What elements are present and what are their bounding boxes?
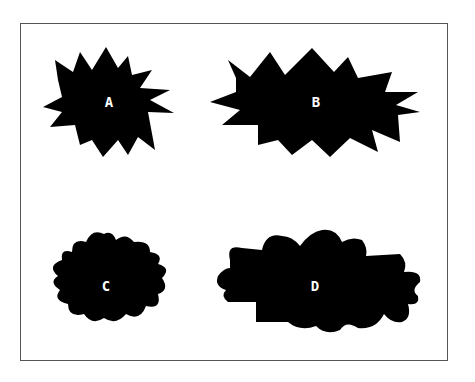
shape-d-label: D bbox=[311, 278, 319, 294]
shape-a-label: A bbox=[105, 94, 113, 110]
shape-c-rounded bbox=[53, 232, 166, 321]
shapes-canvas bbox=[0, 0, 475, 382]
shape-b-label: B bbox=[312, 94, 320, 110]
shape-c-label: C bbox=[102, 278, 110, 294]
